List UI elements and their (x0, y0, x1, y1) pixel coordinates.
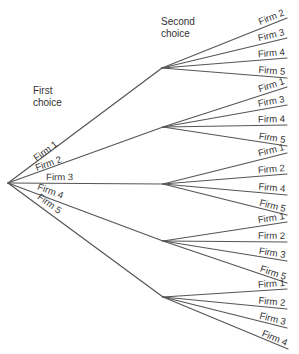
second-choice-label: Firm 2 (258, 230, 285, 241)
second-choice-label: Firm 2 (257, 162, 285, 175)
tree-edges (8, 18, 288, 349)
second-choice-label: Firm 4 (258, 113, 285, 124)
second-choice-label: Firm 3 (258, 245, 286, 260)
second-choice-label: Firm 2 (258, 294, 286, 308)
first-choice-header-line1: First (33, 85, 53, 96)
second-choice-label: Firm 4 (258, 181, 286, 194)
first-choice-header-line2: choice (33, 97, 62, 108)
second-choice-edge (163, 241, 287, 242)
second-choice-label: Firm 4 (260, 327, 289, 347)
second-choice-label: Firm 1 (257, 141, 286, 158)
second-choice-label: Firm 1 (257, 75, 286, 94)
first-choice-label: Firm 3 (46, 171, 73, 182)
firm-choice-tree-diagram: First choice Second choice Firm 1Firm 2F… (0, 0, 299, 354)
second-choice-header-line2: choice (161, 28, 190, 39)
second-choice-edge (163, 125, 287, 127)
first-choice-edge (8, 183, 163, 184)
second-choice-label: Firm 1 (258, 277, 286, 290)
second-choice-header-line1: Second (161, 16, 195, 27)
first-choice-edge (8, 68, 162, 183)
first-choice-edge (8, 183, 163, 297)
second-choice-label: Firm 4 (257, 46, 285, 59)
first-choice-edge (8, 183, 163, 241)
